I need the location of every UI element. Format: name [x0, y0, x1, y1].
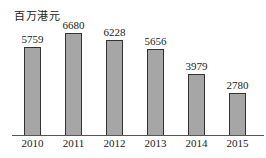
x-tick-label-2012: 2012 — [95, 137, 135, 149]
x-tick-label-2010: 2010 — [13, 137, 53, 149]
x-tick-label-2011: 2011 — [54, 137, 94, 149]
x-axis-line — [12, 135, 264, 136]
value-label-2013: 5656 — [136, 35, 176, 47]
x-tick-label-2013: 2013 — [136, 137, 176, 149]
bar-2010 — [24, 47, 41, 135]
value-label-2011: 6680 — [54, 19, 94, 31]
value-label-2012: 6228 — [95, 26, 135, 38]
bar-2015 — [229, 93, 246, 135]
bar-2011 — [65, 33, 82, 135]
value-label-2010: 5759 — [13, 33, 53, 45]
x-tick-label-2015: 2015 — [218, 137, 258, 149]
x-tick-label-2014: 2014 — [177, 137, 217, 149]
value-label-2015: 2780 — [218, 79, 258, 91]
bar-2013 — [147, 49, 164, 135]
bar-2014 — [188, 74, 205, 135]
value-label-2014: 3979 — [177, 60, 217, 72]
bar-2012 — [106, 40, 123, 135]
